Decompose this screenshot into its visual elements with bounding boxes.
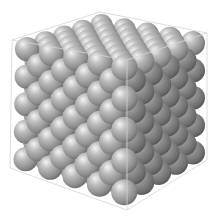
sphere — [111, 117, 137, 143]
lattice-render — [0, 0, 220, 219]
box-edge — [10, 40, 12, 168]
sphere — [111, 179, 137, 205]
sphere — [111, 148, 137, 174]
sphere — [111, 86, 137, 112]
sphere-group — [14, 14, 206, 205]
